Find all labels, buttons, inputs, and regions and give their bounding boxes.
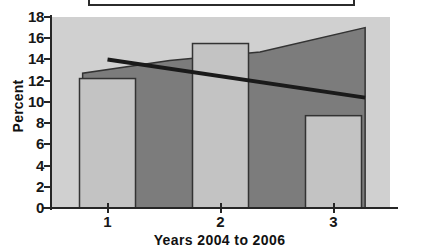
x-tick-label-3: 3 [314,213,354,230]
plot-area [51,17,390,208]
y-tick-label: 2 [4,178,44,195]
plot-canvas [51,17,390,208]
y-tick-mark [44,143,52,145]
y-tick-label: 16 [4,29,44,46]
x-tick-mark [107,203,109,213]
x-tick-label-2: 2 [201,213,241,230]
y-tick-mark [44,101,52,103]
y-tick-mark [44,80,52,82]
bar-category-2 [193,44,249,208]
bar-category-3 [306,116,362,208]
y-axis-line [50,15,52,210]
x-tick-mark [220,203,222,213]
y-tick-mark [44,58,52,60]
y-axis-title: Percent [10,51,26,161]
y-tick-label: 18 [4,8,44,25]
chart-figure: 024681012141618 123 Percent Years 2004 t… [0,0,439,250]
y-tick-mark [44,16,52,18]
bar-category-1 [80,79,136,208]
y-tick-mark [44,165,52,167]
y-tick-mark [44,122,52,124]
x-tick-label-1: 1 [88,213,128,230]
y-tick-mark [44,37,52,39]
legend-box [88,0,355,6]
x-tick-mark [333,203,335,213]
x-axis-title: Years 2004 to 2006 [0,232,439,248]
y-tick-mark [44,207,52,209]
y-tick-mark [44,186,52,188]
y-tick-label: 0 [4,199,44,216]
